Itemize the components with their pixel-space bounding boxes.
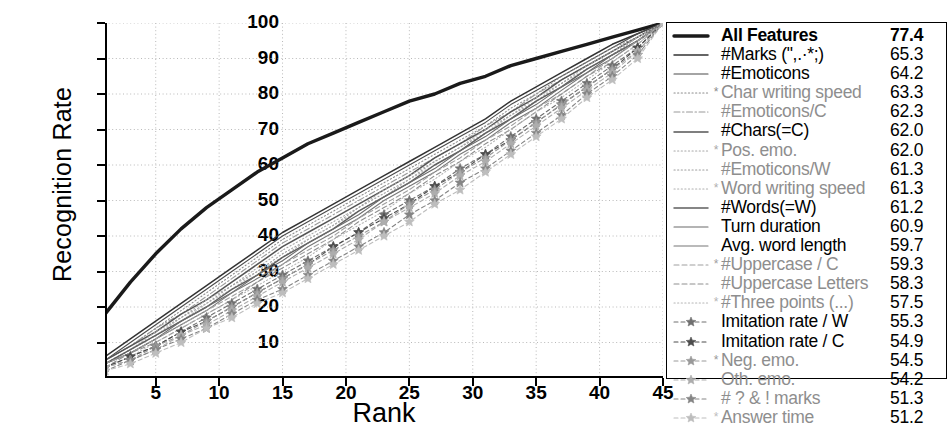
legend-item[interactable]: Avg. word length59.7 — [671, 236, 942, 255]
legend-item[interactable]: *#Uppercase / C59.3 — [671, 255, 942, 274]
legend-item[interactable]: #Chars(=C)62.0 — [671, 121, 942, 140]
y-tick-mark — [97, 271, 105, 273]
y-tick-mark — [97, 22, 105, 24]
legend-item[interactable]: #Emoticons/W61.3 — [671, 160, 942, 179]
x-tick-mark — [535, 378, 537, 386]
y-axis-line — [105, 23, 107, 378]
legend-line-sample-solid-icon — [671, 26, 711, 45]
y-tick-mark — [97, 235, 105, 237]
legend-label: Word writing speed — [721, 179, 890, 198]
legend-item[interactable]: Imitation rate / C54.9 — [671, 332, 942, 351]
series-19 — [105, 23, 663, 375]
x-axis-line — [105, 376, 663, 378]
legend-label: Answer time — [721, 408, 890, 427]
legend-line-sample-dashed-icon — [671, 274, 711, 293]
legend-value: 61.3 — [890, 160, 942, 179]
legend-label: Oth. emo. — [721, 370, 890, 389]
legend-label: # ? & ! marks — [721, 389, 890, 408]
legend-line-sample-solid-icon — [671, 122, 711, 141]
legend-item[interactable]: #Emoticons/C62.3 — [671, 102, 942, 121]
legend-item[interactable]: Oth. emo.54.2 — [671, 370, 942, 389]
legend-item[interactable]: #Marks (",.·*;)65.3 — [671, 45, 942, 64]
series-canvas — [105, 23, 663, 378]
y-tick-mark — [97, 129, 105, 131]
legend-line-sample-dotted-icon — [671, 160, 711, 179]
legend-label: Neg. emo. — [721, 351, 890, 370]
x-tick-mark — [345, 378, 347, 386]
legend-item[interactable]: #Words(=W)61.2 — [671, 198, 942, 217]
legend-label: #Words(=W) — [721, 198, 890, 217]
legend-line-sample-dotted-icon — [671, 293, 711, 312]
legend-item[interactable]: #Uppercase Letters58.3 — [671, 274, 942, 293]
legend-line-sample-star-icon — [671, 332, 711, 351]
legend-item[interactable]: # ? & ! marks51.3 — [671, 389, 942, 408]
legend-box[interactable]: All Features77.4#Marks (",.·*;)65.3#Emot… — [666, 22, 947, 379]
legend-value: 62.3 — [890, 102, 942, 121]
legend-line-sample-solid-icon — [671, 217, 711, 236]
legend-item[interactable]: Imitation rate / W55.3 — [671, 312, 942, 331]
x-tick-mark — [408, 378, 410, 386]
legend-label: #Chars(=C) — [721, 121, 890, 140]
x-tick-mark — [218, 378, 220, 386]
x-tick-mark — [662, 378, 664, 386]
legend-asterisk-marker: * — [711, 351, 721, 370]
legend-item[interactable]: All Features77.4 — [671, 26, 942, 45]
legend-value: 57.5 — [890, 293, 942, 312]
legend-label: #Three points (...) — [721, 293, 890, 312]
legend-value: 62.0 — [890, 141, 942, 160]
legend-label: Avg. word length — [721, 236, 890, 255]
y-tick-mark — [97, 58, 105, 60]
y-tick-mark — [97, 200, 105, 202]
legend-item[interactable]: *Word writing speed61.3 — [671, 179, 942, 198]
legend-line-sample-solid-icon — [671, 236, 711, 255]
legend-asterisk-marker: * — [711, 255, 721, 274]
legend-label: #Marks (",.·*;) — [721, 45, 890, 64]
y-axis-title: Recognition Rate — [48, 35, 77, 335]
legend-item[interactable]: Turn duration60.9 — [671, 217, 942, 236]
y-tick-mark — [97, 164, 105, 166]
legend-item[interactable]: *Neg. emo.54.5 — [671, 351, 942, 370]
legend-value: 55.3 — [890, 312, 942, 331]
legend-line-sample-dotted-icon — [671, 141, 711, 160]
y-tick-mark — [97, 93, 105, 95]
legend-asterisk-marker: * — [711, 293, 721, 312]
legend-line-sample-solid-icon — [671, 64, 711, 83]
legend-line-sample-dashdot-icon — [671, 102, 711, 121]
legend-value: 77.4 — [890, 26, 942, 45]
legend-value: 62.0 — [890, 121, 942, 140]
legend-line-sample-star-icon — [671, 370, 711, 389]
legend-item[interactable]: #Emoticons64.2 — [671, 64, 942, 83]
legend-asterisk-marker: * — [711, 83, 721, 102]
legend-value: 59.7 — [890, 236, 942, 255]
legend-line-sample-star-icon — [671, 312, 711, 331]
legend-line-sample-dotted-icon — [671, 179, 711, 198]
legend-asterisk-marker: * — [711, 179, 721, 198]
legend-item[interactable]: *Char writing speed63.3 — [671, 83, 942, 102]
legend-value: 51.3 — [890, 389, 942, 408]
legend-label: Char writing speed — [721, 83, 890, 102]
legend-value: 61.2 — [890, 198, 942, 217]
legend-label: #Emoticons/W — [721, 160, 890, 179]
legend-line-sample-dotted-icon — [671, 83, 711, 102]
legend-item[interactable]: *Answer time51.2 — [671, 408, 942, 427]
x-tick-mark — [599, 378, 601, 386]
legend-label: Turn duration — [721, 217, 890, 236]
legend-line-sample-star-icon — [671, 389, 711, 408]
legend-line-sample-star-icon — [671, 351, 711, 370]
legend-label: #Uppercase / C — [721, 255, 890, 274]
legend-label: #Emoticons/C — [721, 102, 890, 121]
legend-value: 64.2 — [890, 64, 942, 83]
legend-value: 61.3 — [890, 179, 942, 198]
legend-label: #Uppercase Letters — [721, 274, 890, 293]
legend-label: #Emoticons — [721, 64, 890, 83]
legend-value: 54.2 — [890, 370, 942, 389]
x-tick-mark — [282, 378, 284, 386]
y-tick-mark — [97, 342, 105, 344]
y-tick-mark — [97, 306, 105, 308]
chart-figure: Recognition Rate Rank 100908070605040302… — [0, 0, 949, 439]
legend-item[interactable]: *#Three points (...)57.5 — [671, 293, 942, 312]
legend-line-sample-star-icon — [671, 408, 711, 427]
legend-value: 54.9 — [890, 332, 942, 351]
x-tick-mark — [155, 378, 157, 386]
legend-item[interactable]: *Pos. emo.62.0 — [671, 141, 942, 160]
